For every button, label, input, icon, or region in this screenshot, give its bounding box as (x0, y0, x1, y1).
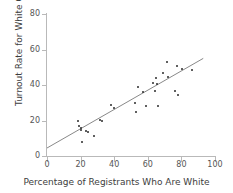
data-point (167, 76, 169, 78)
x-axis-title: Percentage of Registrants Who Are White (0, 177, 233, 187)
x-tick-label: 80 (169, 161, 193, 169)
data-point (134, 102, 136, 104)
x-tick-label: 20 (69, 161, 93, 169)
regression-line (47, 14, 215, 156)
data-point (137, 86, 139, 88)
x-tick-label: 100 (203, 161, 227, 169)
y-tick-label: 20 (20, 117, 40, 125)
data-point (174, 90, 176, 92)
plot-area (47, 14, 215, 156)
scatter-plot-figure: 020406080 020406080100 Turnout Rate for … (0, 0, 233, 193)
y-axis-title: Turnout Rate for White Candidate (14, 0, 24, 106)
data-point (177, 94, 179, 96)
data-point (142, 91, 144, 93)
x-tick-label: 0 (35, 161, 59, 169)
data-point (162, 72, 164, 74)
data-point (154, 90, 156, 92)
x-tick-label: 60 (136, 161, 160, 169)
data-point (135, 111, 137, 113)
x-axis-line (46, 156, 216, 157)
y-tick-label: 0 (20, 152, 40, 160)
x-tick-label: 40 (102, 161, 126, 169)
